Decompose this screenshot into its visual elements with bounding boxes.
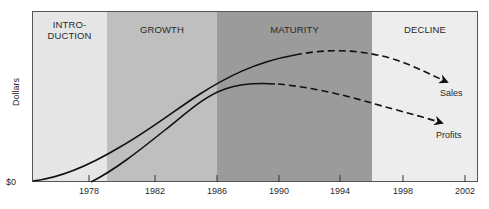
x-tick-label: 2002 — [450, 186, 480, 196]
y-axis-label: Dollars — [11, 72, 21, 112]
x-tick-label: 1990 — [264, 186, 294, 196]
x-tick-label: 1986 — [202, 186, 232, 196]
product-life-cycle-chart: INTRO- DUCTION GROWTH MATURITY DECLINE — [0, 0, 489, 209]
profits-curve-dashed — [278, 84, 442, 123]
x-tick-label: 1982 — [140, 186, 170, 196]
sales-curve-solid — [33, 55, 295, 181]
x-tick-label: 1994 — [325, 186, 355, 196]
y-axis-zero-label: $0 — [6, 177, 16, 187]
sales-series-label: Sales — [440, 88, 463, 98]
profits-curve-solid — [91, 84, 275, 182]
sales-curve-dashed — [295, 51, 447, 82]
profits-series-label: Profits — [436, 130, 462, 140]
x-tick-label: 1998 — [388, 186, 418, 196]
plot-lines — [0, 0, 489, 209]
x-tick-label: 1978 — [74, 186, 104, 196]
x-axis-ticks — [89, 175, 465, 182]
